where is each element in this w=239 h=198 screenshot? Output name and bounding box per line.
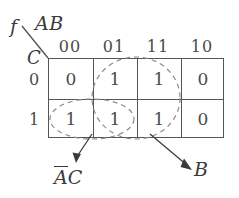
cell-r0-c01: 1 xyxy=(93,59,137,99)
kmap-grid: 0 1 1 0 1 1 1 0 xyxy=(48,58,224,138)
cell-r1-c00: 1 xyxy=(49,99,93,139)
plain-c: C xyxy=(68,166,83,188)
overbar-a: A xyxy=(54,166,68,187)
cell-r1-c01: 1 xyxy=(93,99,137,139)
cell-r1-c11: 1 xyxy=(137,99,181,139)
group-label-ac: AC xyxy=(54,166,82,187)
column-header-10: 10 xyxy=(180,37,224,56)
column-header-00: 00 xyxy=(48,37,92,56)
row-header-1: 1 xyxy=(24,110,44,129)
cell-r0-c00: 0 xyxy=(49,59,93,99)
cell-r1-c10: 0 xyxy=(181,99,225,139)
column-header-11: 11 xyxy=(136,37,180,56)
karnaugh-map-figure: f AB C 00 01 11 10 0 1 0 1 1 0 1 1 1 0 xyxy=(0,0,239,198)
cell-r0-c11: 1 xyxy=(137,59,181,99)
cell-r0-c10: 0 xyxy=(181,59,225,99)
row-header-0: 0 xyxy=(24,70,44,89)
group-label-b: B xyxy=(194,160,208,179)
column-header-01: 01 xyxy=(92,37,136,56)
